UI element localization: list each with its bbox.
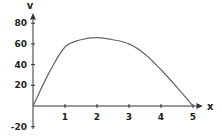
y-tick-label: 80 (14, 18, 27, 28)
x-tick-label: 5 (190, 112, 196, 122)
y-axis-arrow-icon (30, 13, 36, 20)
series-curve (33, 38, 193, 106)
y-tick-label: -20 (11, 122, 27, 132)
axes: xv12345-2020406080 (11, 0, 214, 132)
y-axis-label: v (27, 0, 34, 11)
curve-layer (33, 38, 193, 106)
x-tick-label: 4 (158, 112, 164, 122)
x-tick-label: 1 (62, 112, 68, 122)
x-tick-label: 2 (94, 112, 100, 122)
x-tick-label: 3 (126, 112, 132, 122)
x-axis-arrow-icon (196, 103, 203, 109)
x-axis-label: x (207, 101, 214, 112)
chart: xv12345-2020406080 (0, 0, 222, 136)
y-tick-label: 40 (14, 60, 27, 70)
y-tick-label: 60 (14, 39, 27, 49)
y-tick-label: 20 (14, 80, 27, 90)
